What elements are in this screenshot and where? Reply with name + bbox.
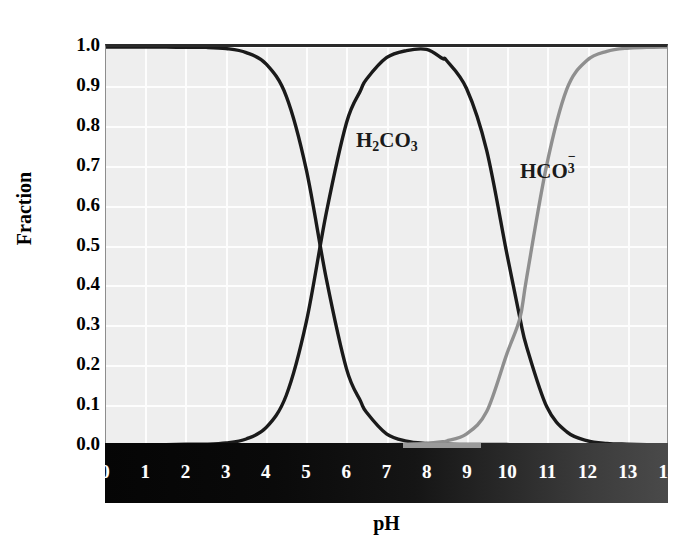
x-tick-label: 8 <box>422 462 432 481</box>
y-axis-tick-labels: 1.00.90.80.70.60.50.40.30.20.10.0 <box>52 44 100 443</box>
y-tick-label: 0.8 <box>52 114 100 133</box>
plot-area: H2CO3 HCO−3 CO2−3 <box>105 44 668 443</box>
curve-h2co3 <box>106 47 667 443</box>
y-tick-label: 0.9 <box>52 74 100 93</box>
y-axis-title: Fraction <box>13 149 36 269</box>
label-hco3: HCO−3 <box>520 157 581 182</box>
x-tick-label: 1 <box>140 462 150 481</box>
x-tick-label: 5 <box>301 462 311 481</box>
gray-baseline-segment <box>403 443 481 448</box>
curve-layer <box>106 47 667 443</box>
x-tick-label: 12 <box>578 462 597 481</box>
y-tick-label: 0.0 <box>52 434 100 453</box>
figure-carbonate-speciation: Fraction 1.00.90.80.70.60.50.40.30.20.10… <box>0 0 700 558</box>
x-tick-label: 7 <box>382 462 392 481</box>
x-tick-label: 0 <box>105 462 110 481</box>
y-tick-label: 0.1 <box>52 394 100 413</box>
label-hco3-text: HCO−3 <box>520 159 581 183</box>
x-axis-title: pH <box>105 512 668 535</box>
label-h2co3: H2CO3 <box>356 130 418 154</box>
x-tick-label: 14 <box>659 462 669 481</box>
y-tick-label: 0.6 <box>52 194 100 213</box>
y-tick-label: 0.5 <box>52 234 100 253</box>
y-tick-label: 0.3 <box>52 314 100 333</box>
x-tick-label: 13 <box>618 462 637 481</box>
x-axis-band: 01234567891011121314 <box>105 443 668 503</box>
label-h2co3-text: H2CO3 <box>356 128 418 152</box>
y-tick-label: 1.0 <box>52 35 100 54</box>
y-tick-label: 0.4 <box>52 274 100 293</box>
y-tick-label: 0.7 <box>52 154 100 173</box>
x-tick-label: 3 <box>221 462 231 481</box>
x-tick-label: 10 <box>498 462 517 481</box>
x-tick-label: 9 <box>462 462 472 481</box>
curve-hco3- <box>106 49 667 443</box>
x-tick-label: 2 <box>181 462 191 481</box>
y-tick-label: 0.2 <box>52 354 100 373</box>
x-tick-label: 6 <box>342 462 352 481</box>
curve-co3-2- <box>106 47 667 443</box>
x-tick-label: 11 <box>538 462 556 481</box>
x-tick-label: 4 <box>261 462 271 481</box>
